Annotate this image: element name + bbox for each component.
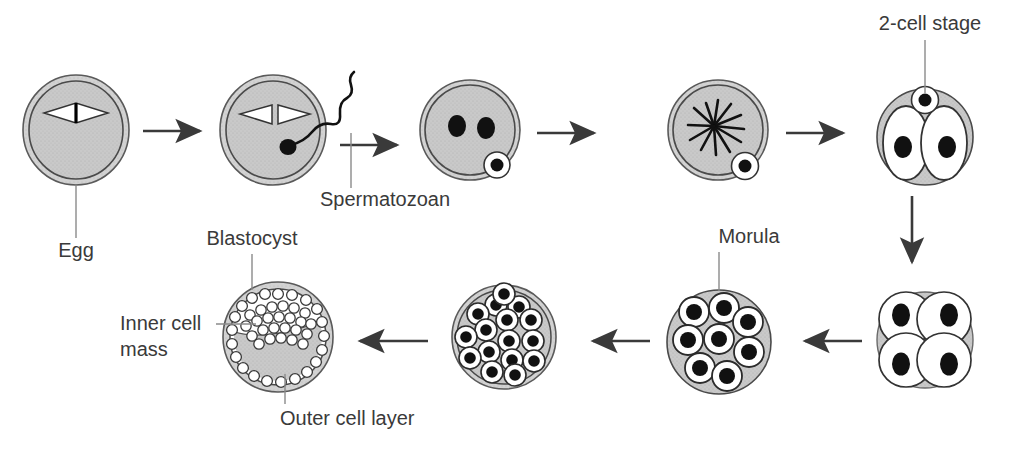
egg-cytoplasm xyxy=(226,81,320,179)
label-inner-cell-mass-line2: mass xyxy=(120,338,168,360)
label-morula: Morula xyxy=(718,225,780,247)
nucleus-icon xyxy=(940,353,958,376)
nucleus-icon xyxy=(892,353,910,376)
stage-four-cell xyxy=(877,292,973,388)
stage-pronuclei xyxy=(420,80,520,180)
polar-body-nucleus-icon xyxy=(739,160,752,173)
stage-fertilization xyxy=(220,72,354,185)
stage-morula-early xyxy=(667,290,771,394)
label-spermatozoan: Spermatozoan xyxy=(320,188,450,210)
egg-cytoplasm xyxy=(29,81,123,179)
sperm-head-icon xyxy=(280,139,297,155)
embryo-development-diagram: Egg Spermatozoan 2-cell stage Morula Bla… xyxy=(0,0,1009,451)
nucleus-icon xyxy=(940,304,958,327)
polar-body-nucleus-icon xyxy=(491,159,504,172)
label-inner-cell-mass-line1: Inner cell xyxy=(120,312,201,334)
stage-morula-late xyxy=(452,283,556,389)
label-blastocyst: Blastocyst xyxy=(206,227,298,249)
label-outer-cell-layer: Outer cell layer xyxy=(280,407,415,429)
nucleus-icon xyxy=(938,136,956,158)
nucleus-icon xyxy=(892,304,910,327)
diagram-canvas: Egg Spermatozoan 2-cell stage Morula Bla… xyxy=(0,0,1009,451)
stage-two-cell xyxy=(877,87,973,186)
male-pronucleus-icon xyxy=(448,115,466,137)
stage-blastocyst xyxy=(223,282,333,392)
polar-body-nucleus-icon xyxy=(919,94,932,107)
stage-cleavage-spindle xyxy=(668,80,768,180)
label-egg: Egg xyxy=(58,239,94,261)
stage-egg xyxy=(23,75,129,185)
female-pronucleus-icon xyxy=(477,117,495,139)
nucleus-icon xyxy=(894,136,912,158)
label-two-cell-stage: 2-cell stage xyxy=(879,12,981,34)
